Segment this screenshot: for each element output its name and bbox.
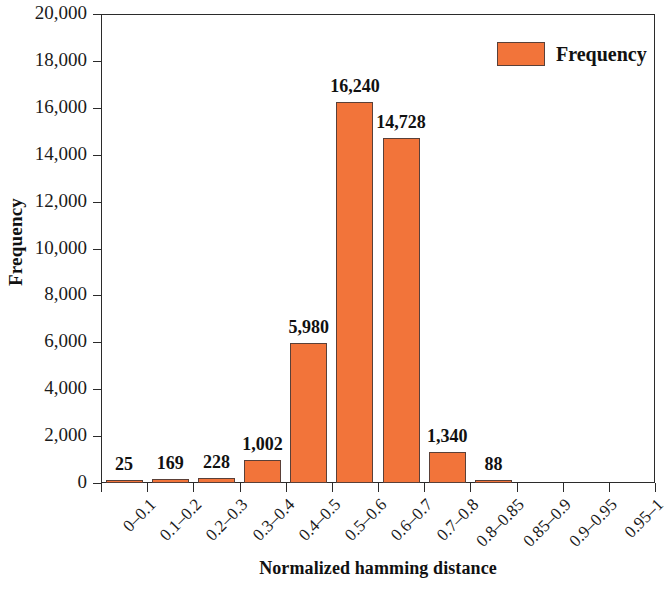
bar [152,479,189,483]
bar-value-label: 169 [157,453,184,474]
bar-value-label: 1,002 [242,434,283,455]
bar [429,452,466,483]
bar-value-label: 1,340 [427,426,468,447]
bar-value-label: 5,980 [289,317,330,338]
bars-layer: 251692281,0025,98016,24014,7281,34088 [0,0,670,591]
chart-legend: Frequency [497,42,647,66]
bar [106,480,143,483]
bar-value-label: 25 [115,454,133,475]
bar-value-label: 228 [203,452,230,473]
bar [383,138,420,483]
bar [244,460,281,483]
bar-chart: Frequency 02,0004,0006,0008,00010,00012,… [0,0,670,591]
bar [336,102,373,483]
bar [290,343,327,483]
bar-value-label: 14,728 [376,112,426,133]
bar-value-label: 88 [484,454,502,475]
bar [475,480,512,483]
bar [198,478,235,483]
x-axis-title: Normalized hamming distance [101,558,655,579]
bar-value-label: 16,240 [330,76,380,97]
legend-swatch-frequency [497,42,545,66]
legend-label-frequency: Frequency [556,43,647,66]
